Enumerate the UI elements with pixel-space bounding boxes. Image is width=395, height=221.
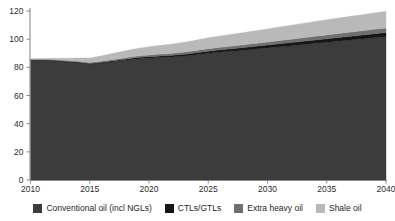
legend-item-ctls-gtls: CTLs/GTLs	[165, 203, 221, 213]
y-tick-label: 80	[14, 62, 24, 72]
legend-label: Shale oil	[329, 203, 362, 213]
x-tick-label: 2020	[140, 184, 159, 192]
x-tick-label: 2010	[21, 184, 40, 192]
y-tick-label: 60	[14, 91, 24, 101]
legend-label: Extra heavy oil	[247, 203, 303, 213]
y-tick-label: 40	[14, 119, 24, 129]
legend-swatch-icon	[33, 204, 42, 213]
legend-label: CTLs/GTLs	[178, 203, 221, 213]
legend-item-shale-oil: Shale oil	[316, 203, 362, 213]
legend-swatch-icon	[234, 204, 243, 213]
y-tick-label: 20	[14, 147, 24, 157]
chart-canvas: 0204060801001202010201520202025203020352…	[0, 0, 395, 192]
chart-legend: Conventional oil (incl NGLs) CTLs/GTLs E…	[0, 197, 395, 219]
plot-area: 0204060801001202010201520202025203020352…	[0, 0, 395, 192]
x-tick-label: 2035	[317, 184, 336, 192]
x-tick-label: 2040	[377, 184, 395, 192]
y-tick-label: 100	[9, 34, 23, 44]
x-tick-label: 2015	[80, 184, 99, 192]
legend-swatch-icon	[165, 204, 174, 213]
y-tick-label: 120	[9, 6, 23, 16]
x-tick-label: 2030	[258, 184, 277, 192]
legend-item-conventional-oil: Conventional oil (incl NGLs)	[33, 203, 151, 213]
legend-item-extra-heavy-oil: Extra heavy oil	[234, 203, 303, 213]
legend-swatch-icon	[316, 204, 325, 213]
x-tick-label: 2025	[199, 184, 218, 192]
stacked-area-chart: 0204060801001202010201520202025203020352…	[0, 0, 395, 221]
legend-label: Conventional oil (incl NGLs)	[46, 203, 151, 213]
